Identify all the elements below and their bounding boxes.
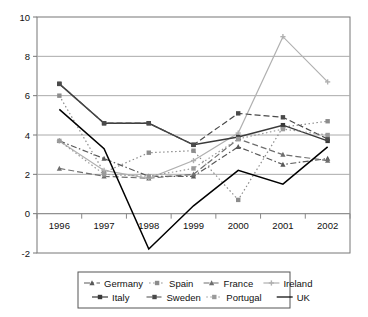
x-axis-tick-label: 2000	[228, 220, 249, 231]
legend-label-ireland: Ireland	[283, 278, 312, 289]
x-axis-tick-label: 1997	[94, 220, 115, 231]
data-point-spain	[191, 149, 195, 153]
y-axis-tick-label: -2	[22, 248, 30, 259]
legend-label-uk: UK	[297, 292, 311, 303]
y-axis-tick-label: 10	[19, 12, 30, 23]
data-point-portugal	[212, 295, 216, 299]
data-point-spain	[147, 151, 151, 155]
x-axis-tick-label: 1999	[183, 220, 204, 231]
data-point-sweden	[281, 115, 285, 119]
data-point-sweden	[236, 111, 240, 115]
data-point-sweden	[57, 82, 61, 86]
chart-canvas: 1086420-21996199719981999200020012002Ger…	[0, 0, 368, 317]
x-axis-tick-label: 2001	[272, 220, 293, 231]
y-axis-tick-label: 2	[25, 169, 30, 180]
y-axis-tick-label: 6	[25, 90, 30, 101]
data-point-italy	[98, 295, 102, 299]
y-axis-tick-label: 0	[25, 208, 30, 219]
data-point-portugal	[147, 174, 151, 178]
line-chart: 1086420-21996199719981999200020012002Ger…	[0, 0, 368, 317]
data-point-portugal	[236, 137, 240, 141]
data-point-portugal	[281, 127, 285, 131]
legend-label-italy: Italy	[112, 292, 130, 303]
x-axis-tick-label: 2002	[317, 220, 338, 231]
legend-label-sweden: Sweden	[167, 292, 201, 303]
legend-label-france: France	[224, 278, 254, 289]
legend-label-spain: Spain	[169, 278, 193, 289]
data-point-italy	[281, 123, 285, 127]
data-point-portugal	[325, 133, 329, 137]
data-point-spain	[57, 93, 61, 97]
x-axis-tick-label: 1996	[49, 220, 70, 231]
data-point-spain	[155, 281, 159, 285]
y-axis-tick-label: 4	[25, 130, 30, 141]
y-axis-tick-label: 8	[25, 51, 30, 62]
data-point-sweden	[147, 121, 151, 125]
x-axis-tick-label: 1998	[138, 220, 159, 231]
data-point-portugal	[191, 166, 195, 170]
data-point-sweden	[152, 295, 156, 299]
legend-label-portugal: Portugal	[226, 292, 261, 303]
data-point-portugal	[102, 172, 106, 176]
data-point-spain	[325, 119, 329, 123]
data-point-sweden	[102, 121, 106, 125]
legend-label-germany: Germany	[104, 278, 143, 289]
data-point-sweden	[191, 143, 195, 147]
data-point-spain	[236, 198, 240, 202]
data-point-sweden	[325, 137, 329, 141]
data-point-portugal	[57, 139, 61, 143]
